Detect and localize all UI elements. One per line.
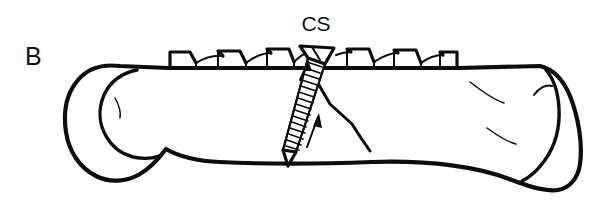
- bone-fixation-illustration: B CS: [0, 0, 607, 211]
- panel-label: B: [25, 42, 42, 70]
- callout-label-cs: CS: [301, 12, 330, 35]
- figure-container: B CS B CS: [0, 0, 607, 211]
